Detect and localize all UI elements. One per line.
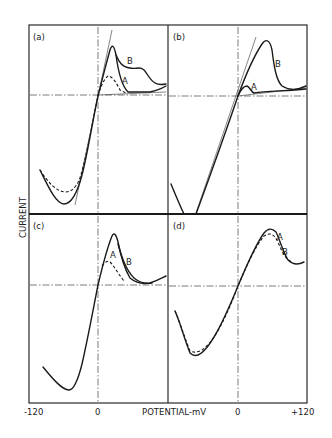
panel-d-label: (d): [173, 221, 185, 231]
panel-b-tangent-line: [196, 37, 256, 213]
x-tick-zero-left: 0: [95, 407, 100, 417]
panel-b-curve-B: [196, 41, 306, 214]
panel-c-label: (c): [33, 221, 44, 231]
panel-a-label-A: A: [122, 76, 128, 86]
panel-d: (d) A B: [169, 216, 306, 402]
panel-d-label-A: A: [277, 232, 283, 242]
panel-d-curve-B: [175, 234, 292, 352]
panel-b-label-B: B: [275, 59, 281, 69]
panel-c-curve-B: [43, 234, 166, 390]
panel-b-curve-lower-branch: [171, 184, 184, 214]
panel-c: (c) A B: [30, 216, 167, 402]
panel-b-label-A: A: [251, 82, 257, 92]
panel-a-label-B: B: [127, 56, 133, 66]
frame: [29, 25, 307, 403]
panel-c-curve-A: [102, 261, 124, 281]
panel-b-label: (b): [173, 32, 185, 42]
panel-a-label: (a): [33, 32, 45, 42]
panel-d-label-B: B: [282, 247, 288, 257]
panel-b: (b) B A: [169, 27, 306, 214]
x-axis-label: POTENTIAL-mV: [142, 407, 206, 417]
panel-a-curve-A-solid: [40, 46, 166, 204]
panel-c-label-A: A: [110, 250, 116, 260]
y-axis-label: CURRENT: [18, 196, 28, 238]
panel-c-label-B: B: [126, 257, 132, 267]
panel-a-curve-A: [40, 76, 126, 192]
panel-a: (a) B A: [30, 27, 167, 213]
chart-figure: (a) B A (b) B A (c) A B (d): [0, 0, 332, 438]
x-tick-neg120: -120: [24, 407, 43, 417]
x-tick-pos120: +120: [291, 407, 314, 417]
x-tick-zero-right: 0: [235, 407, 240, 417]
